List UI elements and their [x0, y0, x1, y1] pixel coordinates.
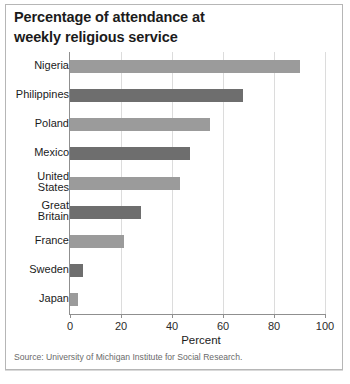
plot-area: 020406080100NigeriaPhilippinesPolandMexi…: [0, 0, 350, 384]
x-tick-label: 40: [166, 320, 178, 332]
category-label-great-britain: Great Britain: [38, 200, 69, 223]
x-tick-label: 20: [115, 320, 127, 332]
gridline-100: [325, 52, 326, 314]
x-axis-line: [69, 314, 325, 315]
bar-mexico: [70, 147, 190, 160]
x-tick-mark-20: [121, 314, 122, 318]
category-label-philippines: Philippines: [16, 89, 69, 101]
category-label-nigeria: Nigeria: [34, 60, 69, 72]
x-tick-label: 60: [217, 320, 229, 332]
bar-philippines: [70, 89, 243, 102]
x-tick-label: 0: [67, 320, 73, 332]
category-label-japan: Japan: [39, 293, 69, 305]
x-tick-mark-40: [172, 314, 173, 318]
bar-nigeria: [70, 60, 300, 73]
gridline-80: [274, 52, 275, 314]
bar-united-states: [70, 177, 180, 190]
footer-divider: [5, 370, 343, 371]
category-label-france: France: [35, 235, 69, 247]
bar-sweden: [70, 264, 83, 277]
x-tick-label: 100: [316, 320, 334, 332]
category-label-poland: Poland: [35, 118, 69, 130]
x-tick-label: 80: [268, 320, 280, 332]
category-label-united-states: United States: [37, 171, 69, 194]
x-tick-mark-100: [325, 314, 326, 318]
x-axis-label: Percent: [0, 334, 350, 346]
chart-figure: Percentage of attendance at weekly relig…: [0, 0, 350, 384]
bar-japan: [70, 293, 78, 306]
bar-poland: [70, 118, 210, 131]
source-note: Source: University of Michigan Institute…: [14, 352, 242, 362]
x-tick-mark-60: [223, 314, 224, 318]
x-tick-mark-0: [70, 314, 71, 318]
bar-france: [70, 235, 124, 248]
x-tick-mark-80: [274, 314, 275, 318]
bar-great-britain: [70, 206, 141, 219]
category-label-sweden: Sweden: [29, 264, 69, 276]
category-label-mexico: Mexico: [34, 147, 69, 159]
